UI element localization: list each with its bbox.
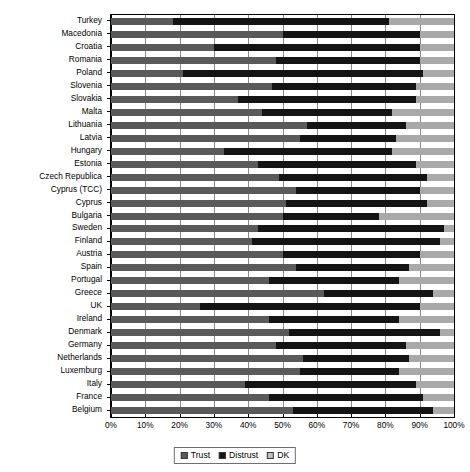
bar-segment-distrust — [307, 122, 406, 129]
category-tick-mark — [107, 397, 110, 398]
bar-segment-trust — [111, 303, 200, 310]
bar-segment-distrust — [238, 96, 416, 103]
x-axis-tick-mark — [283, 414, 284, 418]
bar-row — [111, 339, 454, 352]
legend-label-trust: Trust — [191, 450, 210, 461]
bar-segment-distrust — [252, 238, 441, 245]
bar-segment-trust — [111, 135, 300, 142]
bar-segment-distrust — [272, 83, 416, 90]
bar-segment-distrust — [262, 109, 392, 116]
bar-segment-distrust — [258, 225, 443, 232]
bar-segment-trust — [111, 57, 276, 64]
bar-segment-distrust — [283, 251, 420, 258]
bar-segment-dk — [423, 394, 454, 401]
bar-segment-trust — [111, 122, 307, 129]
bar-row — [111, 326, 454, 339]
bar-row — [111, 119, 454, 132]
category-label: Hungary — [71, 144, 102, 157]
bar-row — [111, 365, 454, 378]
bar-row — [111, 248, 454, 261]
category-label: Sweden — [72, 221, 102, 234]
stacked-bar — [111, 290, 454, 297]
bar-segment-trust — [111, 394, 269, 401]
bar-segment-dk — [409, 264, 454, 271]
stacked-bar — [111, 381, 454, 388]
bar-segment-dk — [433, 290, 454, 297]
bar-segment-distrust — [245, 381, 417, 388]
bar-segment-dk — [416, 83, 454, 90]
bar-segment-trust — [111, 174, 279, 181]
stacked-bar — [111, 187, 454, 194]
x-axis-tick-label: 90% — [411, 418, 428, 432]
x-axis-tick-mark — [248, 414, 249, 418]
category-label: Turkey — [77, 14, 102, 27]
stacked-bar — [111, 109, 454, 116]
category-tick-mark — [107, 176, 110, 177]
bar-segment-dk — [420, 57, 454, 64]
x-axis-tick-mark — [214, 414, 215, 418]
stacked-bar — [111, 122, 454, 129]
bar-segment-trust — [111, 70, 183, 77]
category-label: Estonia — [74, 157, 102, 170]
stacked-bar — [111, 329, 454, 336]
bar-row — [111, 197, 454, 210]
category-tick-mark — [107, 137, 110, 138]
bar-segment-dk — [416, 161, 454, 168]
category-tick-mark — [107, 280, 110, 281]
bar-segment-distrust — [289, 329, 440, 336]
category-label: Italy — [87, 377, 102, 390]
bar-segment-distrust — [303, 355, 409, 362]
bar-segment-trust — [111, 355, 303, 362]
bar-row — [111, 41, 454, 54]
category-tick-mark — [107, 98, 110, 99]
bar-row — [111, 274, 454, 287]
bar-segment-trust — [111, 329, 289, 336]
bar-row — [111, 222, 454, 235]
category-label: Netherlands — [57, 351, 102, 364]
category-tick-mark — [107, 371, 110, 372]
stacked-bar — [111, 355, 454, 362]
x-axis-tick-mark — [317, 414, 318, 418]
category-label: Cyprus (TCC) — [51, 183, 102, 196]
stacked-bar — [111, 83, 454, 90]
bar-segment-dk — [420, 31, 454, 38]
bar-segment-trust — [111, 18, 173, 25]
stacked-bar — [111, 394, 454, 401]
category-tick-mark — [107, 215, 110, 216]
stacked-bar — [111, 238, 454, 245]
category-label: Bulgaria — [72, 209, 102, 222]
bar-segment-trust — [111, 251, 283, 258]
bar-segment-distrust — [200, 303, 420, 310]
bar-segment-trust — [111, 109, 262, 116]
category-label: Czech Republica — [39, 170, 102, 183]
bar-row — [111, 67, 454, 80]
stacked-bar — [111, 303, 454, 310]
bar-segment-dk — [416, 96, 454, 103]
legend-label-dk: DK — [277, 450, 289, 461]
bar-segment-trust — [111, 238, 252, 245]
bar-segment-trust — [111, 381, 245, 388]
bar-segment-dk — [392, 109, 454, 116]
bar-row — [111, 93, 454, 106]
bar-row — [111, 145, 454, 158]
plot-area — [110, 14, 455, 418]
bar-segment-distrust — [286, 200, 427, 207]
stacked-bar — [111, 225, 454, 232]
category-tick-mark — [107, 332, 110, 333]
bar-segment-distrust — [183, 70, 423, 77]
bar-segment-dk — [399, 316, 454, 323]
x-axis-tick-mark — [385, 414, 386, 418]
bar-segment-trust — [111, 161, 258, 168]
legend-swatch-trust-icon — [181, 452, 188, 459]
bar-segment-distrust — [276, 57, 420, 64]
bar-segment-trust — [111, 225, 258, 232]
x-axis-tick-mark — [420, 414, 421, 418]
bar-segment-distrust — [324, 290, 434, 297]
bar-segment-dk — [420, 303, 454, 310]
category-label: Austria — [76, 247, 102, 260]
category-tick-mark — [107, 72, 110, 73]
stacked-bar — [111, 368, 454, 375]
x-axis: 0%10%20%30%40%50%60%70%80%90%100% — [110, 418, 455, 434]
bar-segment-distrust — [269, 394, 423, 401]
bar-segment-distrust — [296, 264, 409, 271]
